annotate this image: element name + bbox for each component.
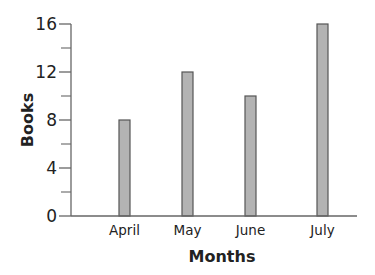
x-tick-label: May: [174, 222, 202, 238]
y-tick-label: 16: [35, 14, 57, 34]
y-tick-label: 8: [46, 110, 57, 130]
y-axis-ticks: 0481216: [35, 14, 71, 226]
y-tick-label: 0: [46, 206, 57, 226]
x-axis-title: Months: [189, 247, 256, 266]
bars: [119, 24, 328, 216]
bar-may: [182, 72, 193, 216]
bar-chart: 0481216 AprilMayJuneJuly Months Books: [0, 0, 375, 275]
bar-july: [317, 24, 328, 216]
x-tick-label: April: [109, 222, 140, 238]
y-tick-label: 12: [35, 62, 57, 82]
bar-april: [119, 120, 130, 216]
x-tick-label: June: [235, 222, 265, 238]
y-tick-label: 4: [46, 158, 57, 178]
x-tick-label: July: [309, 222, 334, 238]
x-axis-labels: AprilMayJuneJuly: [109, 222, 335, 238]
bar-june: [245, 96, 256, 216]
y-axis-title: Books: [18, 93, 37, 147]
